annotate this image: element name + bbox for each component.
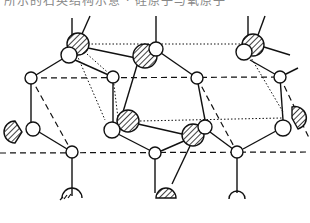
- hatched-atom-partial: [156, 188, 176, 198]
- hatched-atom-partial: [4, 121, 22, 143]
- dashed-lines: [0, 77, 310, 153]
- hatched-atom-partial: [292, 107, 306, 129]
- crystal-structure-diagram: [0, 0, 310, 223]
